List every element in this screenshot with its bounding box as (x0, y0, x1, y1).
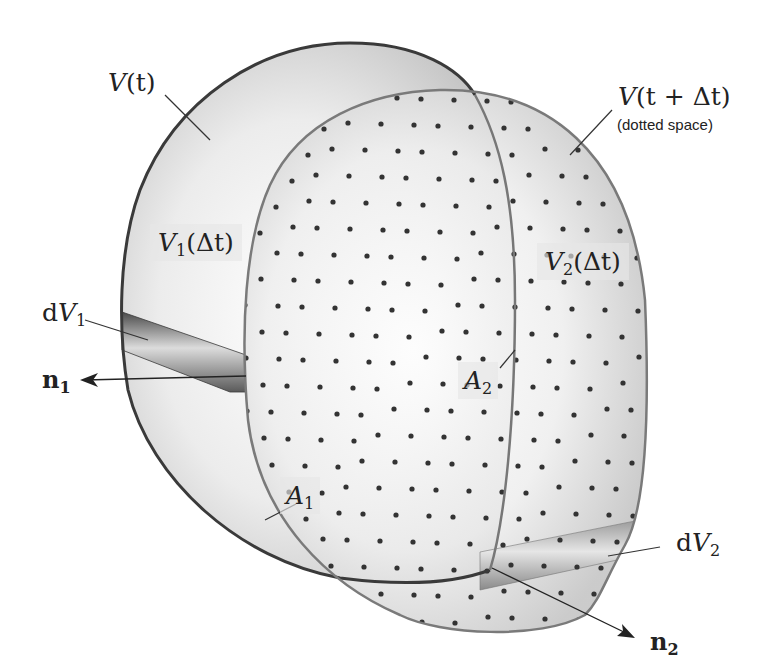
label-dv1: dV1 (42, 300, 86, 325)
label-v1-arg: (Δt) (186, 228, 234, 257)
label-dv1-main: V (58, 298, 76, 327)
label-dv2-main: V (692, 528, 710, 557)
label-dv1-prefix: d (42, 298, 58, 327)
label-a1-main: A (286, 481, 304, 510)
label-v-t-dt-arg: (t + Δt) (636, 82, 731, 111)
label-n2-main: n (650, 627, 667, 656)
label-v1-dt: V1(Δt) (150, 224, 242, 261)
label-v-t-dt-main: V (618, 82, 636, 111)
label-a2: A2 (458, 362, 498, 399)
label-v2-arg: (Δt) (573, 247, 621, 276)
label-v1-sub: 1 (176, 241, 186, 260)
label-dotted-space: (dotted space) (617, 117, 713, 132)
label-v1-main: V (158, 228, 176, 257)
label-dv2-prefix: d (676, 528, 692, 557)
label-a1: A1 (280, 477, 320, 514)
label-v-t-arg: (t) (126, 68, 156, 97)
label-n2-sub: 2 (667, 640, 678, 656)
label-v2-dt: V2(Δt) (537, 243, 629, 280)
label-a2-sub: 2 (482, 379, 492, 398)
label-n1: n1 (42, 368, 71, 392)
label-dv2-sub: 2 (710, 541, 720, 560)
label-v2-sub: 2 (563, 260, 573, 279)
label-a1-sub: 1 (304, 494, 314, 513)
label-v-t-main: V (108, 68, 126, 97)
label-dv2: dV2 (676, 530, 720, 555)
label-a2-main: A (464, 366, 482, 395)
label-n2: n2 (650, 630, 679, 654)
label-v2-main: V (545, 247, 563, 276)
label-n1-sub: 1 (59, 378, 70, 397)
label-v-t: V(t) (108, 70, 156, 95)
label-dv1-sub: 1 (76, 311, 86, 330)
label-n1-main: n (42, 365, 59, 394)
label-v-t-dt: V(t + Δt) (618, 84, 731, 109)
